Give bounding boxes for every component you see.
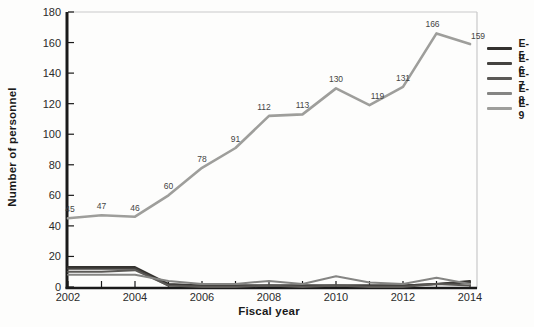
legend-item-e-9: E-9	[487, 101, 534, 116]
data-label-e-9: 166	[425, 19, 439, 29]
data-label-e-9: 159	[471, 31, 485, 41]
x-tick-label: 2002	[56, 291, 80, 303]
legend-swatch-e-9	[487, 107, 512, 110]
data-label-e-9: 113	[296, 100, 310, 110]
x-tick-label: 2006	[190, 291, 214, 303]
x-axis-title: Fiscal year	[68, 305, 470, 317]
x-tick-label: 2014	[458, 291, 482, 303]
data-label-e-9: 119	[371, 91, 385, 101]
x-tick-label: 2012	[391, 291, 415, 303]
data-label-e-9: 130	[329, 74, 343, 84]
data-label-e-9: 47	[97, 201, 107, 211]
data-label-e-9: 91	[231, 134, 241, 144]
data-label-e-9: 46	[130, 203, 140, 213]
legend-swatch-e-5	[487, 47, 512, 50]
series-line-e-9	[68, 33, 470, 218]
legend-swatch-e-6	[487, 62, 512, 65]
legend-swatch-e-8	[487, 92, 512, 95]
data-label-e-9: 60	[164, 181, 174, 191]
plot-area: 0204060801001201401601802002200420062008…	[0, 0, 534, 327]
y-tick-label: 20	[49, 250, 61, 262]
y-tick-label: 80	[49, 159, 61, 171]
legend-swatch-e-7	[487, 77, 512, 80]
personnel-line-chart: 0204060801001201401601802002200420062008…	[0, 0, 534, 327]
x-tick-label: 2008	[257, 291, 281, 303]
y-tick-label: 60	[49, 189, 61, 201]
data-label-e-9: 131	[396, 73, 410, 83]
y-tick-label: 140	[43, 67, 61, 79]
y-axis-title: Number of personnel	[6, 47, 18, 247]
y-tick-label: 180	[43, 6, 61, 18]
data-label-e-9: 45	[65, 204, 75, 214]
y-tick-label: 120	[43, 98, 61, 110]
data-label-e-9: 78	[197, 154, 207, 164]
y-tick-label: 160	[43, 37, 61, 49]
y-tick-label: 100	[43, 128, 61, 140]
data-label-e-9: 112	[257, 102, 271, 112]
x-tick-label: 2010	[324, 291, 348, 303]
y-tick-label: 40	[49, 220, 61, 232]
legend: E-5E-6E-7E-8E-9	[487, 41, 534, 116]
legend-label-e-9: E-9	[519, 97, 534, 121]
x-tick-label: 2004	[123, 291, 147, 303]
